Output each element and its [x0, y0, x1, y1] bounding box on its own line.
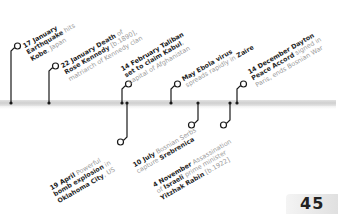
- page-number: 45: [286, 194, 338, 214]
